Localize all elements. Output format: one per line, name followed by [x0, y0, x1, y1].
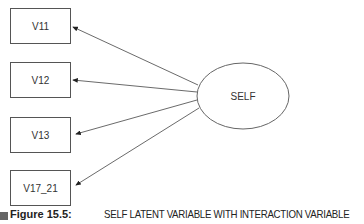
indicator-box-v17-21: V17_21: [10, 170, 71, 206]
indicator-box-v11: V11: [10, 8, 71, 44]
latent-label: SELF: [230, 91, 255, 102]
indicator-label: V11: [32, 21, 49, 32]
indicator-label: V17_21: [23, 183, 57, 194]
edge-self-v13: [76, 100, 197, 134]
indicator-label: V12: [32, 75, 50, 86]
latent-variable-self: SELF: [197, 63, 289, 129]
indicator-box-v12: V12: [10, 62, 71, 98]
figure-number: Figure 15.5:: [10, 208, 72, 220]
figure-title: SELF LATENT VARIABLE WITH INTERACTION VA…: [104, 208, 349, 220]
indicator-box-v13: V13: [10, 117, 71, 153]
edge-self-v12: [73, 80, 197, 92]
edge-self-v17-21: [76, 108, 199, 185]
edge-self-v11: [73, 27, 198, 85]
indicator-label: V13: [32, 130, 50, 141]
square-bullet-icon: [0, 212, 8, 220]
figure-caption: Figure 15.5: SELF LATENT VARIABLE WITH I…: [0, 205, 364, 224]
